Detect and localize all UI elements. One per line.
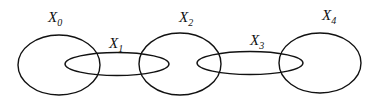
set-label-x0: X0 <box>47 9 62 28</box>
set-ellipse-x1 <box>65 53 169 76</box>
set-ellipse-x2 <box>139 33 221 95</box>
set-label-x3: X3 <box>249 32 264 51</box>
diagram-svg: X0X1X2X3X4 <box>0 0 379 99</box>
set-ellipse-x4 <box>279 33 361 93</box>
set-label-x2: X2 <box>178 9 193 28</box>
set-ellipse-x3 <box>197 52 303 75</box>
set-label-x1: X1 <box>108 35 123 54</box>
set-ellipse-x0 <box>18 35 100 95</box>
set-label-x4: X4 <box>321 7 336 26</box>
set-chain-diagram: X0X1X2X3X4 <box>0 0 379 99</box>
